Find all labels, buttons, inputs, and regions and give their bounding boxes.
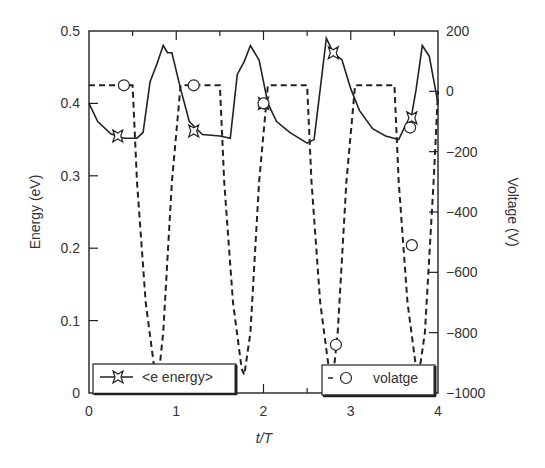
x-tick-label: 1 [172, 403, 180, 419]
y-right-tick-label: −400 [446, 204, 478, 220]
legend-energy: <e energy> [93, 364, 237, 395]
circle-marker-icon [188, 80, 199, 91]
circle-marker-icon [118, 80, 129, 91]
x-tick-label: 0 [85, 403, 93, 419]
y-right-tick-label: 0 [446, 83, 454, 99]
chart-canvas: 0123400.10.20.30.40.52000−200−400−600−80… [0, 0, 545, 468]
y-left-tick-label: 0.4 [61, 95, 81, 111]
legend-voltage-label: volatge [373, 370, 418, 386]
y-axis-right-title: Voltage (V) [505, 177, 521, 246]
star-marker-icon [113, 130, 123, 142]
y-right-tick-label: 200 [446, 23, 470, 39]
circle-marker-icon [405, 122, 416, 133]
x-tick-label: 2 [260, 403, 268, 419]
y-left-tick-label: 0.3 [61, 168, 81, 184]
y-right-tick-label: −200 [446, 144, 478, 160]
y-axis-left-title: Energy (eV) [27, 175, 43, 250]
y-right-tick-label: −1000 [446, 385, 486, 401]
circle-marker-icon [341, 373, 352, 384]
star-marker-icon [328, 47, 338, 59]
circle-marker-icon [330, 339, 341, 350]
legend-voltage: volatge [322, 365, 436, 396]
circle-marker-icon [406, 240, 417, 251]
y-left-tick-label: 0.2 [61, 240, 81, 256]
voltage-series-line [89, 85, 438, 375]
y-right-tick-label: −800 [446, 325, 478, 341]
x-axis-title: t/T [256, 430, 274, 446]
y-left-tick-label: 0 [72, 385, 80, 401]
x-tick-label: 3 [347, 403, 355, 419]
y-left-tick-label: 0.1 [61, 313, 81, 329]
circle-marker-icon [258, 98, 269, 109]
y-right-tick-label: −600 [446, 264, 478, 280]
y-left-tick-label: 0.5 [61, 23, 81, 39]
x-tick-label: 4 [434, 403, 442, 419]
legend-energy-label: <e energy> [142, 369, 213, 385]
